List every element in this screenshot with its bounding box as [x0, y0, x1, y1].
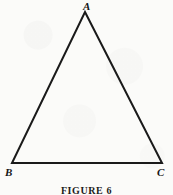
triangle-diagram — [0, 0, 173, 195]
triangle-shape — [12, 12, 162, 163]
vertex-label-a: A — [83, 1, 90, 12]
vertex-label-b: B — [5, 167, 12, 178]
vertex-label-c: C — [157, 167, 164, 178]
figure-caption: FIGURE 6 — [0, 185, 173, 195]
figure-container: A B C FIGURE 6 — [0, 0, 173, 195]
